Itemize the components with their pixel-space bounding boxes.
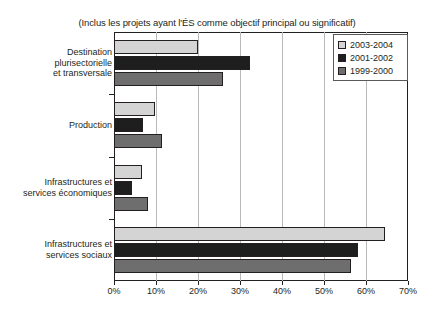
x-tick-mark bbox=[240, 281, 241, 285]
x-tick-label: 40% bbox=[262, 286, 302, 296]
category-label-line: services économiques bbox=[0, 188, 112, 199]
x-tick-mark bbox=[408, 281, 409, 285]
legend-item: 1999-2000 bbox=[338, 64, 403, 77]
category-label-line: plurisectorielle bbox=[0, 58, 112, 69]
bar bbox=[114, 40, 198, 54]
x-tick-mark bbox=[324, 281, 325, 285]
bar bbox=[114, 56, 250, 70]
bar bbox=[114, 165, 142, 179]
x-tick-mark bbox=[366, 281, 367, 285]
bar bbox=[114, 102, 155, 116]
category-label-line: Destination bbox=[0, 47, 112, 58]
x-tick-label: 10% bbox=[136, 286, 176, 296]
legend-label: 1999-2000 bbox=[350, 66, 393, 76]
category-label-line: et transversale bbox=[0, 68, 112, 79]
y-tick-mark bbox=[109, 157, 114, 158]
category-label: Destinationplurisectorielleet transversa… bbox=[0, 47, 112, 79]
x-tick-label: 60% bbox=[346, 286, 386, 296]
category-label-line: services sociaux bbox=[0, 250, 112, 261]
category-label-line: Production bbox=[0, 120, 112, 131]
bar bbox=[114, 197, 148, 211]
x-tick-label: 20% bbox=[178, 286, 218, 296]
bar bbox=[114, 72, 223, 86]
category-label: Production bbox=[0, 120, 112, 131]
category-label: Infrastructures etservices économiques bbox=[0, 177, 112, 198]
bar bbox=[114, 259, 351, 273]
category-label-line: Infrastructures et bbox=[0, 177, 112, 188]
x-tick-label: 70% bbox=[388, 286, 428, 296]
category-label: Infrastructures etservices sociaux bbox=[0, 239, 112, 260]
legend-swatch-icon bbox=[338, 67, 346, 75]
bar bbox=[114, 227, 385, 241]
bar bbox=[114, 134, 162, 148]
legend-label: 2003-2004 bbox=[350, 40, 393, 50]
legend-label: 2001-2002 bbox=[350, 53, 393, 63]
legend-item: 2001-2002 bbox=[338, 51, 403, 64]
x-tick-mark bbox=[198, 281, 199, 285]
bar-chart: (Inclus les projets ayant l'ÉS comme obj… bbox=[0, 0, 434, 313]
x-tick-label: 0% bbox=[94, 286, 134, 296]
x-tick-mark bbox=[114, 281, 115, 285]
bar bbox=[114, 181, 132, 195]
legend-swatch-icon bbox=[338, 41, 346, 49]
x-tick-mark bbox=[156, 281, 157, 285]
bar bbox=[114, 243, 358, 257]
chart-title: (Inclus les projets ayant l'ÉS comme obj… bbox=[0, 17, 434, 28]
x-tick-label: 30% bbox=[220, 286, 260, 296]
x-tick-label: 50% bbox=[304, 286, 344, 296]
y-tick-mark bbox=[109, 219, 114, 220]
x-tick-mark bbox=[282, 281, 283, 285]
legend: 2003-20042001-20021999-2000 bbox=[333, 34, 408, 81]
category-label-line: Infrastructures et bbox=[0, 239, 112, 250]
legend-item: 2003-2004 bbox=[338, 38, 403, 51]
legend-swatch-icon bbox=[338, 54, 346, 62]
bar bbox=[114, 118, 143, 132]
y-tick-mark bbox=[109, 94, 114, 95]
